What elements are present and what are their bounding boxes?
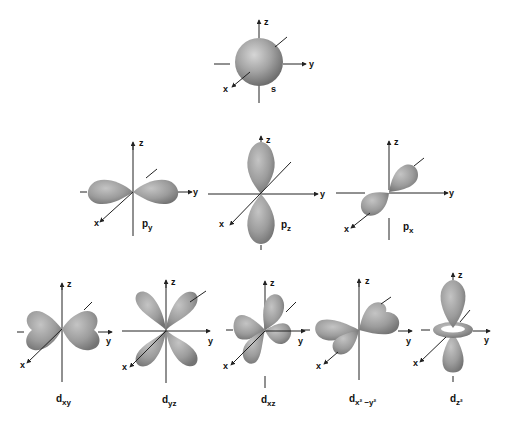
- pz-lobe-top: [247, 142, 274, 194]
- y-axis-label: y: [193, 187, 198, 197]
- y-axis-label: y: [309, 59, 314, 69]
- orbital-dyz: z y x dyz: [122, 277, 213, 408]
- orbital-label-px: px: [403, 221, 414, 235]
- dyz-lobe-upper-right: [166, 292, 198, 330]
- z-axis-label: z: [171, 277, 176, 287]
- py-lobe-left: [88, 180, 133, 204]
- x-axis-back: [275, 37, 287, 47]
- x-axis-label: x: [223, 84, 228, 94]
- orbital-label-dxz: dxz: [261, 394, 276, 408]
- orbital-dxy: z y x dxy: [17, 279, 112, 407]
- orbital-pz: z y x pz: [208, 135, 325, 250]
- orbital-label-dx2-y2: dx² −y²: [349, 393, 377, 407]
- y-axis-label: y: [106, 336, 111, 346]
- pz-lobe-bottom: [247, 194, 274, 244]
- y-axis-label: y: [208, 336, 213, 346]
- z-axis-label: z: [67, 279, 72, 289]
- z-axis-label: z: [264, 17, 269, 27]
- z-axis-label: z: [394, 137, 399, 147]
- x-axis-back: [286, 302, 296, 312]
- x-axis-label: x: [20, 360, 25, 370]
- px-lobe-back: [389, 165, 418, 192]
- dz2-lobe-top: [441, 280, 466, 328]
- z-axis-label: z: [139, 138, 144, 148]
- orbital-py: z y x py: [80, 138, 198, 236]
- y-axis-label: y: [320, 189, 325, 199]
- z-axis-label: z: [365, 276, 370, 286]
- orbital-diagram: z y x s z y x py z y x pz: [0, 0, 511, 426]
- x-axis-back: [414, 158, 424, 166]
- orbital-label-s: s: [271, 84, 276, 94]
- x-axis: [420, 337, 446, 362]
- orbital-label-dxy: dxy: [56, 393, 72, 407]
- orbital-s: z y x s: [214, 17, 314, 103]
- x-axis-label: x: [94, 218, 99, 228]
- x-axis-back: [84, 302, 92, 310]
- y-axis-label: y: [298, 336, 303, 346]
- x-axis-label: x: [344, 224, 349, 234]
- orbital-label-dz2: dz²: [450, 393, 463, 407]
- orbital-dxz: z y x dxz: [223, 278, 305, 408]
- x-axis-label: x: [122, 362, 127, 372]
- dz2-lobe-bottom: [442, 333, 463, 373]
- x-axis-back: [146, 169, 157, 178]
- orbital-label-dyz: dyz: [162, 394, 177, 408]
- px-lobe-front: [361, 192, 389, 216]
- x-axis-label: x: [219, 219, 224, 229]
- orbital-dz2: z y x dz²: [413, 270, 490, 407]
- orbital-label-pz: pz: [281, 219, 291, 233]
- orbital-dx2-y2: z y x dx² −y²: [302, 276, 412, 407]
- y-axis-label: y: [484, 335, 489, 345]
- orbital-label-py: py: [142, 218, 153, 232]
- py-lobe-right: [133, 180, 178, 204]
- dyz-lobe-lower-right: [166, 330, 198, 366]
- x-axis-label: x: [316, 361, 321, 371]
- dx2y2-lobe-back-x: [359, 302, 399, 334]
- x-axis: [351, 213, 370, 228]
- dxy-lobe-left: [26, 311, 62, 350]
- z-axis-label: z: [270, 278, 275, 288]
- z-axis-label: z: [458, 270, 463, 280]
- orbital-px: z y x px: [336, 137, 454, 240]
- dyz-lobe-upper-left: [136, 292, 166, 330]
- x-axis-label: x: [223, 361, 228, 371]
- x-axis: [324, 352, 338, 364]
- x-axis-label: x: [413, 358, 418, 368]
- z-axis-label: z: [266, 135, 271, 145]
- x-axis-back: [381, 297, 391, 304]
- y-axis-label: y: [406, 336, 411, 346]
- y-axis-label: y: [449, 188, 454, 198]
- dxy-lobe-right: [62, 311, 100, 350]
